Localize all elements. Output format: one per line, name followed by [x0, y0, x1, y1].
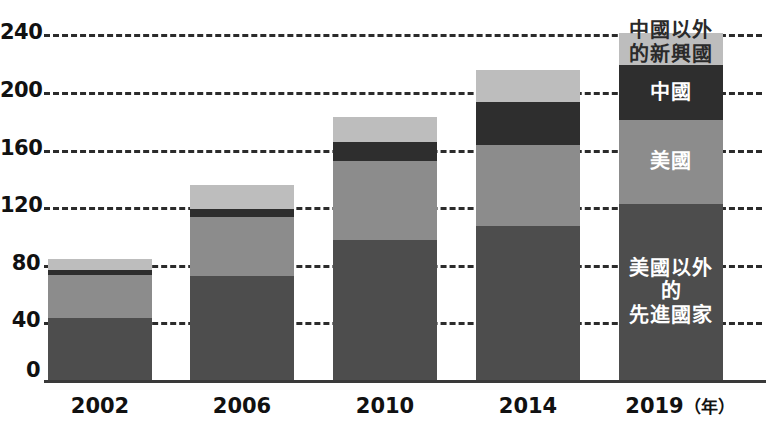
bar-2002-segment-us[interactable]	[48, 275, 152, 318]
y-tick-label-80: 80	[0, 251, 40, 275]
stacked-bar-chart: 240 200 160 120 80 40 0	[0, 0, 774, 424]
bar-2006-segment-emerging-ex-china[interactable]	[190, 185, 294, 209]
bar-2019[interactable]: 美國以外 的 先進國家 美國 中國 中國以外 的新興國	[619, 33, 723, 380]
bar-2002-segment-advanced-ex-us[interactable]	[48, 318, 152, 380]
x-tick-label-2002: 2002	[48, 394, 152, 418]
bar-2014[interactable]	[476, 70, 580, 380]
bar-2019-segment-china[interactable]: 中國	[619, 65, 723, 120]
x-axis-unit-label: （年）	[684, 397, 735, 417]
bar-2010-segment-china[interactable]	[333, 142, 437, 161]
bar-2010-segment-us[interactable]	[333, 161, 437, 240]
x-tick-label-2019: 2019（年）	[605, 393, 755, 418]
legend-label-emerging-ex-china: 中國以外 的新興國	[629, 19, 713, 66]
bar-2019-segment-advanced-ex-us[interactable]: 美國以外 的 先進國家	[619, 204, 723, 380]
x-tick-label-2019-year: 2019	[625, 394, 683, 418]
y-tick-label-120: 120	[0, 193, 40, 217]
bar-2010-segment-emerging-ex-china[interactable]	[333, 117, 437, 142]
x-tick-label-2014: 2014	[476, 394, 580, 418]
bar-2019-segment-us[interactable]: 美國	[619, 120, 723, 204]
bar-2006-segment-advanced-ex-us[interactable]	[190, 276, 294, 380]
bar-2014-segment-advanced-ex-us[interactable]	[476, 226, 580, 380]
y-tick-label-160: 160	[0, 136, 40, 160]
y-tick-label-240: 240	[0, 20, 40, 44]
y-tick-label-200: 200	[0, 78, 40, 102]
legend-label-us: 美國	[650, 150, 692, 174]
bar-2002[interactable]	[48, 259, 152, 380]
y-tick-label-0: 0	[0, 358, 40, 382]
x-tick-label-2010: 2010	[333, 394, 437, 418]
bar-2014-segment-emerging-ex-china[interactable]	[476, 70, 580, 102]
bar-2010-segment-advanced-ex-us[interactable]	[333, 240, 437, 380]
bar-2014-segment-china[interactable]	[476, 102, 580, 145]
x-tick-label-2006: 2006	[190, 394, 294, 418]
axis-baseline	[44, 380, 766, 383]
bar-2006[interactable]	[190, 185, 294, 380]
y-tick-label-40: 40	[0, 308, 40, 332]
bar-2014-segment-us[interactable]	[476, 145, 580, 226]
legend-label-advanced-ex-us: 美國以外 的 先進國家	[629, 257, 713, 328]
plot-area: 240 200 160 120 80 40 0	[0, 0, 774, 424]
bar-2002-segment-emerging-ex-china[interactable]	[48, 259, 152, 270]
bar-2010[interactable]	[333, 117, 437, 380]
bar-2006-segment-us[interactable]	[190, 217, 294, 276]
bar-2006-segment-china[interactable]	[190, 209, 294, 217]
legend-label-china: 中國	[650, 81, 692, 105]
bar-2019-segment-emerging-ex-china[interactable]: 中國以外 的新興國	[619, 33, 723, 65]
